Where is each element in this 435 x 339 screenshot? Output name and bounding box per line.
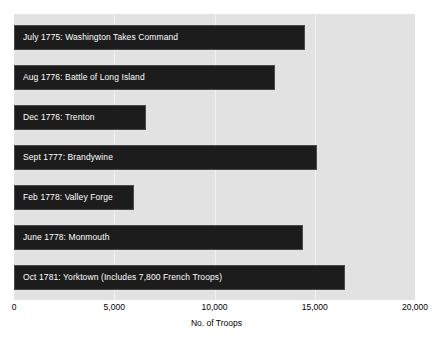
- x-tick-label: 0: [12, 302, 17, 312]
- bar-label: Oct 1781: Yorktown (Includes 7,800 Frenc…: [23, 265, 222, 290]
- bar-label: June 1778: Monmouth: [23, 225, 110, 250]
- bar-label: Aug 1776: Battle of Long Island: [23, 65, 145, 90]
- bar-label: July 1775: Washington Takes Command: [23, 25, 178, 50]
- x-tick-label: 5,000: [104, 302, 125, 312]
- x-tick-label: 15,000: [302, 302, 328, 312]
- bar-label: Sept 1777: Brandywine: [23, 145, 113, 170]
- bar-label: Feb 1778: Valley Forge: [23, 185, 113, 210]
- bar-row: Oct 1781: Yorktown (Includes 7,800 Frenc…: [14, 265, 415, 290]
- x-tick-label: 20,000: [402, 302, 428, 312]
- bar-row: Sept 1777: Brandywine: [14, 145, 415, 170]
- x-axis-tick-labels: 05,00010,00015,00020,000: [0, 302, 435, 316]
- bar-row: Aug 1776: Battle of Long Island: [14, 65, 415, 90]
- bar-row: July 1775: Washington Takes Command: [14, 25, 415, 50]
- bar-row: June 1778: Monmouth: [14, 225, 415, 250]
- bar-chart: July 1775: Washington Takes CommandAug 1…: [0, 0, 435, 339]
- plot-area: July 1775: Washington Takes CommandAug 1…: [14, 14, 415, 300]
- bar-row: Dec 1776: Trenton: [14, 105, 415, 130]
- x-axis-title-text: No. of Troops: [191, 318, 242, 328]
- bar-label: Dec 1776: Trenton: [23, 105, 95, 130]
- bar-row: Feb 1778: Valley Forge: [14, 185, 415, 210]
- x-tick-label: 10,000: [202, 302, 228, 312]
- x-axis-title: No. of Troops: [0, 318, 435, 328]
